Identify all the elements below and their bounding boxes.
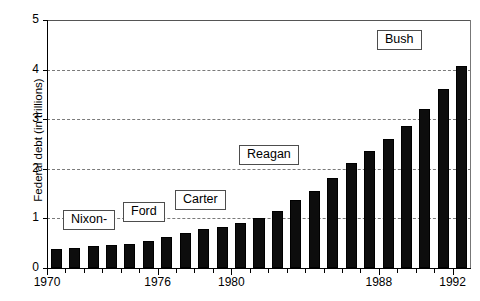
y-tick-label-0: 0	[19, 261, 39, 273]
x-tick-minor-3	[102, 269, 103, 273]
x-tick-minor-15	[324, 269, 325, 273]
x-tick-label-1988: 1988	[357, 276, 401, 288]
x-tick-minor-12	[268, 269, 269, 273]
bar-1982	[272, 211, 283, 268]
x-tick-minor-21	[434, 269, 435, 273]
bar-1987	[364, 151, 375, 268]
y-axis-title: Federal debt (in trillions)	[32, 20, 44, 260]
bar-1988	[383, 139, 394, 268]
bar-1978	[198, 229, 209, 268]
bar-1992	[456, 66, 467, 268]
x-tick-label-1992: 1992	[431, 276, 475, 288]
y-tick-label-3: 3	[19, 112, 39, 124]
bar-1979	[217, 227, 228, 268]
x-tick-minor-20	[416, 269, 417, 273]
bar-1986	[346, 163, 357, 268]
x-tick-label-1980: 1980	[209, 276, 253, 288]
x-tick-minor-14	[305, 269, 306, 273]
bar-1980	[235, 223, 246, 268]
x-tick-minor-8	[194, 269, 195, 273]
bar-1977	[180, 233, 191, 268]
federal-debt-bar-chart: Federal debt (in trillions) 012345 19701…	[0, 0, 480, 301]
y-tick-label-5: 5	[19, 13, 39, 25]
era-label-bush: Bush	[377, 30, 422, 50]
x-tick-minor-4	[121, 269, 122, 273]
era-label-ford: Ford	[123, 202, 165, 222]
bar-1981	[253, 218, 264, 268]
era-label-reagan: Reagan	[239, 145, 299, 165]
bar-1983	[290, 200, 301, 268]
bar-1971	[69, 248, 80, 268]
x-tick-minor-7	[176, 269, 177, 273]
x-tick-minor-11	[250, 269, 251, 273]
bar-1970	[51, 249, 62, 268]
bar-1974	[124, 244, 135, 268]
x-tick-minor-5	[139, 269, 140, 273]
x-tick-label-1970: 1970	[25, 276, 69, 288]
bar-1972	[88, 246, 99, 268]
y-tick-label-4: 4	[19, 63, 39, 75]
x-tick-minor-16	[342, 269, 343, 273]
bar-1975	[143, 241, 154, 268]
y-tick-label-1: 1	[19, 211, 39, 223]
bar-1990	[419, 109, 430, 268]
x-tick-minor-19	[397, 269, 398, 273]
bar-1973	[106, 245, 117, 268]
bar-1989	[401, 126, 412, 268]
era-label-carter: Carter	[175, 190, 226, 210]
x-axis-line	[47, 268, 471, 269]
x-tick-minor-13	[287, 269, 288, 273]
x-tick-minor-1	[65, 269, 66, 273]
era-label-nixon: Nixon-	[63, 210, 115, 230]
bars	[47, 20, 471, 268]
x-tick-label-1976: 1976	[136, 276, 180, 288]
plot-area: 012345 19701976198019881992	[47, 20, 471, 268]
bar-1991	[438, 89, 449, 268]
y-tick-label-2: 2	[19, 162, 39, 174]
x-tick-minor-17	[360, 269, 361, 273]
bar-1976	[161, 237, 172, 268]
bar-1985	[327, 178, 338, 268]
x-tick-minor-2	[84, 269, 85, 273]
x-tick-minor-9	[213, 269, 214, 273]
bar-1984	[309, 191, 320, 268]
